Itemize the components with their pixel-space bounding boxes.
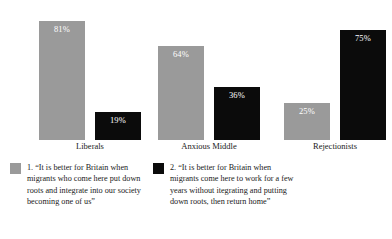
legend-swatch-icon <box>153 163 164 174</box>
legend-item-label: 2. “It is better for Britain when migran… <box>170 162 298 208</box>
legend-item-label: 1. “It is better for Britain when migran… <box>27 162 155 208</box>
bar-value-label: 75% <box>340 34 386 43</box>
bar-rejectionists-series2: 75% <box>340 30 386 140</box>
plot-area: 81% 19% 64% 36% 25% 75% <box>0 0 392 140</box>
bar-anxious-middle-series2: 36% <box>214 87 260 140</box>
bar-chart: 81% 19% 64% 36% 25% 75% Liberals Anxious… <box>0 0 392 239</box>
bar-liberals-series1: 81% <box>39 21 85 140</box>
bar-value-label: 36% <box>214 91 260 100</box>
category-label-liberals: Liberals <box>39 142 141 151</box>
category-label-anxious-middle: Anxious Middle <box>158 142 260 151</box>
bar-liberals-series2: 19% <box>95 112 141 140</box>
bar-anxious-middle-series1: 64% <box>158 46 204 140</box>
category-label-rejectionists: Rejectionists <box>284 142 386 151</box>
bar-value-label: 81% <box>39 25 85 34</box>
chart-legend: 1. “It is better for Britain when migran… <box>0 162 392 232</box>
bar-value-label: 64% <box>158 50 204 59</box>
bar-rejectionists-series1: 25% <box>284 103 330 140</box>
bar-value-label: 25% <box>284 107 330 116</box>
legend-swatch-icon <box>10 163 21 174</box>
bar-value-label: 19% <box>95 116 141 125</box>
